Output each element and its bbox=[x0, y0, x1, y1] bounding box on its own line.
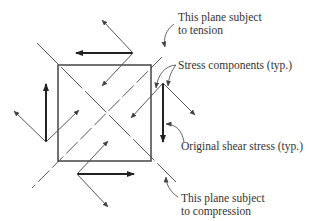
top-stress-group bbox=[76, 20, 133, 86]
stress-components-label: Stress components (typ.) bbox=[178, 59, 292, 72]
compression-label-line2: to compression bbox=[181, 205, 265, 218]
bottom-component-down-right bbox=[77, 174, 108, 207]
right-component-down-left bbox=[131, 83, 163, 118]
compression-label-line1: This plane subject bbox=[181, 192, 265, 205]
top-component-down-left bbox=[102, 53, 133, 86]
leader-compression bbox=[166, 177, 178, 197]
leader-tension bbox=[164, 24, 174, 47]
diagram-graphics bbox=[0, 0, 309, 221]
compression-label: This plane subject to compression bbox=[181, 192, 265, 218]
stress-element-square bbox=[58, 65, 151, 161]
tension-label-line2: to tension bbox=[178, 24, 262, 37]
stress-element-diagram: This plane subject to tension Stress com… bbox=[0, 0, 309, 221]
leader-stress-components bbox=[156, 65, 176, 88]
top-component-up-left bbox=[102, 20, 133, 53]
left-component-up-left bbox=[14, 111, 46, 142]
bottom-stress-group bbox=[77, 141, 134, 207]
left-stress-group bbox=[14, 84, 79, 142]
left-component-up-right bbox=[46, 110, 79, 142]
bottom-component-up-right bbox=[77, 141, 108, 174]
right-stress-group bbox=[131, 83, 195, 142]
tension-label-line1: This plane subject bbox=[178, 11, 262, 24]
original-shear-label: Original shear stress (typ.) bbox=[181, 140, 303, 153]
right-component-down-right bbox=[163, 83, 195, 115]
tension-label: This plane subject to tension bbox=[178, 11, 262, 37]
tension-plane-line bbox=[32, 57, 162, 188]
